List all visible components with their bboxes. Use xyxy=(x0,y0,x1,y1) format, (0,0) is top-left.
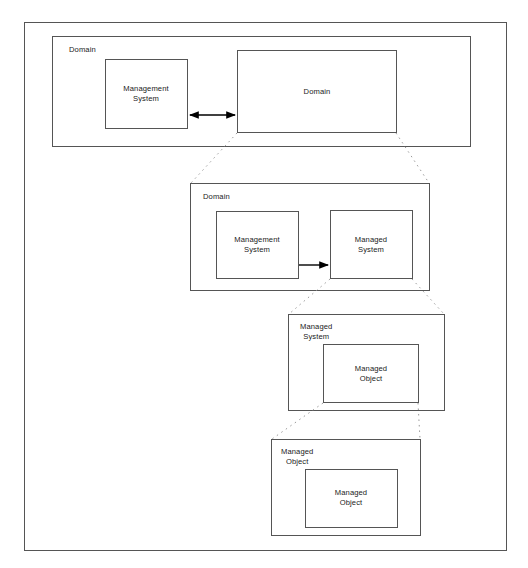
diagram-vector-layer xyxy=(0,0,528,568)
expansion-link-3-right xyxy=(418,403,420,439)
tier-1-management-system-box xyxy=(106,60,188,129)
tier-2-management-system-box xyxy=(217,212,299,279)
expansion-link-2-right xyxy=(412,279,444,314)
expansion-link-1-right xyxy=(396,133,429,183)
expansion-link-2-left xyxy=(289,279,330,314)
tier-2-domain-container xyxy=(191,184,430,291)
tier-1-domain-container xyxy=(53,37,471,147)
expansion-link-3-left xyxy=(272,403,323,439)
outer-frame xyxy=(25,23,507,551)
diagram-canvas: Domain Management System Domain Domain M… xyxy=(0,0,528,568)
tier-4-managed-object-container xyxy=(272,440,421,536)
tier-4-managed-object-box xyxy=(306,470,398,528)
expansion-link-1-left xyxy=(191,133,237,183)
tier-3-managed-object-box xyxy=(324,345,419,403)
tier-1-domain-box xyxy=(238,51,397,133)
tier-3-managed-system-container xyxy=(289,315,445,411)
tier-2-managed-system-box xyxy=(331,211,413,279)
